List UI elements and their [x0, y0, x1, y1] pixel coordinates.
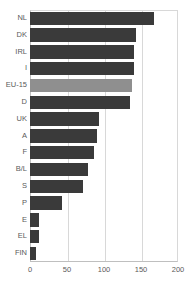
category-label-fin: FIN	[0, 245, 27, 262]
bar-p	[30, 196, 62, 209]
category-label-eu-15: EU-15	[0, 77, 27, 94]
bar-s	[30, 180, 83, 193]
bar-b-l	[30, 163, 88, 176]
bar-row	[30, 228, 178, 245]
bar-row	[30, 77, 178, 94]
category-label-f: F	[0, 144, 27, 161]
bar-a	[30, 129, 97, 142]
category-label-e: E	[0, 212, 27, 229]
category-label-d: D	[0, 94, 27, 111]
bar-irl	[30, 45, 134, 58]
bar-row	[30, 60, 178, 77]
tick-label-200: 200	[172, 265, 185, 274]
category-label-s: S	[0, 178, 27, 195]
bar-row	[30, 10, 178, 27]
category-label-a: A	[0, 128, 27, 145]
bar-eu-15	[30, 79, 132, 92]
bar-nl	[30, 12, 154, 25]
tick-label-100: 100	[98, 265, 111, 274]
bar-row	[30, 195, 178, 212]
bar-row	[30, 212, 178, 229]
category-label-nl: NL	[0, 10, 27, 27]
tick-label-0: 0	[28, 265, 32, 274]
bar-uk	[30, 112, 99, 125]
bar-fin	[30, 247, 36, 260]
bar-d	[30, 96, 130, 109]
bar-i	[30, 62, 134, 75]
bar-dk	[30, 28, 136, 41]
bar-row	[30, 178, 178, 195]
bar-row	[30, 128, 178, 145]
category-label-i: I	[0, 60, 27, 77]
category-label-el: EL	[0, 228, 27, 245]
bar-row	[30, 161, 178, 178]
category-label-b-l: B/L	[0, 161, 27, 178]
bar-e	[30, 213, 39, 226]
bar-el	[30, 230, 39, 243]
tick-label-50: 50	[63, 265, 71, 274]
category-label-uk: UK	[0, 111, 27, 128]
bar-row	[30, 27, 178, 44]
bar-row	[30, 94, 178, 111]
category-label-p: P	[0, 195, 27, 212]
category-axis-labels: NLDKIRLIEU-15DUKAFB/LSPEELFIN	[0, 10, 27, 262]
bar-row	[30, 245, 178, 262]
bar-row	[30, 111, 178, 128]
bar-chart: NLDKIRLIEU-15DUKAFB/LSPEELFIN 0501001502…	[0, 0, 194, 286]
category-label-irl: IRL	[0, 44, 27, 61]
bar-f	[30, 146, 94, 159]
bar-row	[30, 144, 178, 161]
bars-layer	[30, 10, 178, 262]
value-axis-tick-labels: 050100150200	[0, 265, 194, 279]
category-label-dk: DK	[0, 27, 27, 44]
tick-label-150: 150	[135, 265, 148, 274]
bar-row	[30, 44, 178, 61]
